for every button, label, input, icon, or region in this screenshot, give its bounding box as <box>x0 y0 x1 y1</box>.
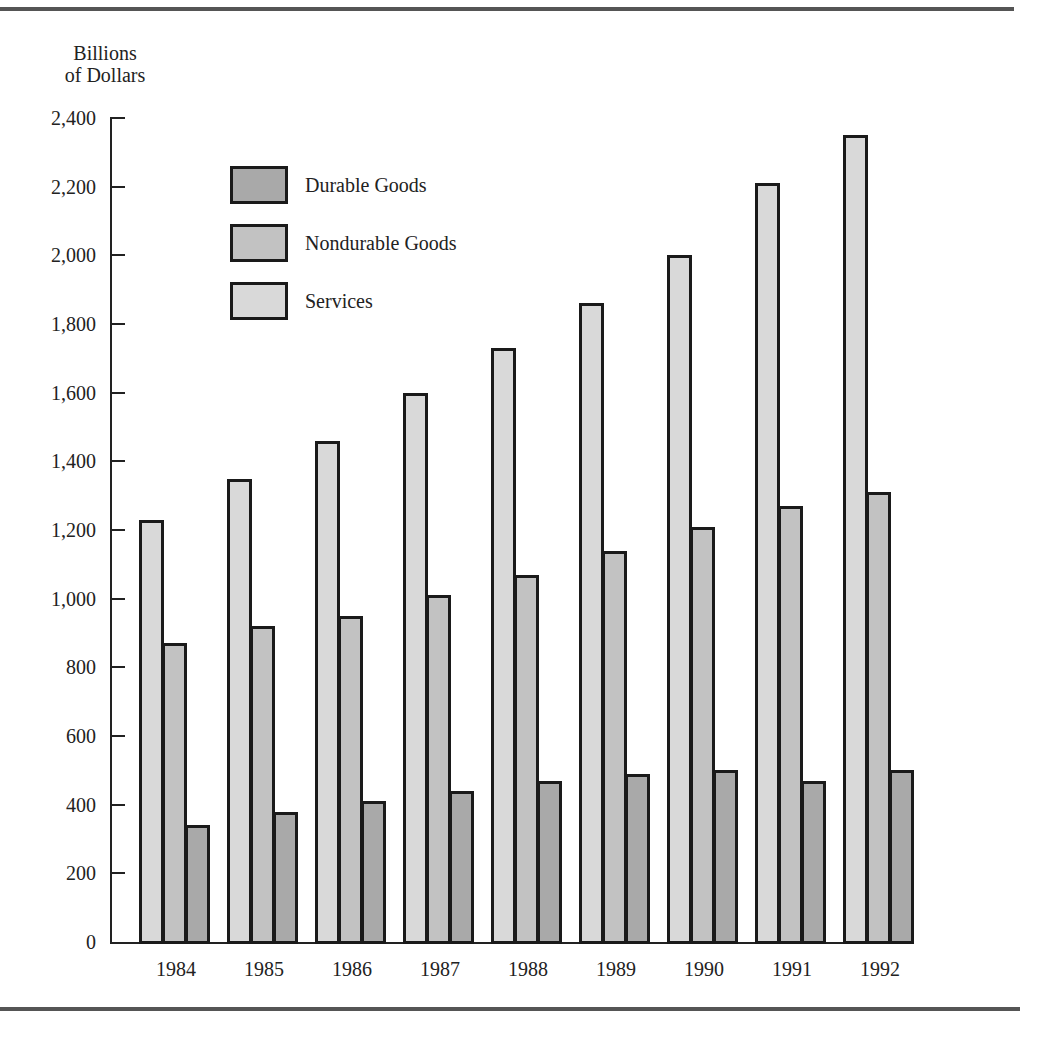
y-tick <box>110 872 125 874</box>
bar-services-1984 <box>139 520 164 944</box>
bar-durable-goods-1987 <box>449 791 474 944</box>
y-tick-label: 1,200 <box>26 520 96 540</box>
bar-services-1992 <box>843 135 868 944</box>
bar-nondurable-goods-1992 <box>866 492 891 944</box>
legend-swatch <box>230 282 288 320</box>
y-tick-label: 1,000 <box>26 589 96 609</box>
y-tick <box>110 598 125 600</box>
bar-services-1986 <box>315 441 340 944</box>
y-tick-label: 2,000 <box>26 245 96 265</box>
y-tick-label: 1,400 <box>26 451 96 471</box>
bar-nondurable-goods-1990 <box>690 527 715 944</box>
x-tick-label: 1984 <box>141 958 211 981</box>
y-tick-label: 800 <box>26 657 96 677</box>
legend-label: Services <box>305 290 373 313</box>
legend-swatch <box>230 224 288 262</box>
bar-services-1991 <box>755 183 780 944</box>
y-tick-label: 2,400 <box>26 108 96 128</box>
bar-services-1985 <box>227 479 252 945</box>
y-tick <box>110 460 125 462</box>
bar-nondurable-goods-1989 <box>602 551 627 944</box>
x-tick-label: 1985 <box>229 958 299 981</box>
bar-nondurable-goods-1991 <box>778 506 803 944</box>
y-tick <box>110 529 125 531</box>
legend-label: Nondurable Goods <box>305 232 457 255</box>
y-tick <box>110 666 125 668</box>
y-tick-label: 2,200 <box>26 177 96 197</box>
bar-nondurable-goods-1986 <box>338 616 363 944</box>
y-tick <box>110 117 125 119</box>
bar-nondurable-goods-1988 <box>514 575 539 944</box>
bar-services-1989 <box>579 303 604 944</box>
y-tick <box>110 323 125 325</box>
bar-services-1988 <box>491 348 516 944</box>
bar-nondurable-goods-1985 <box>250 626 275 944</box>
bar-services-1990 <box>667 255 692 944</box>
bar-nondurable-goods-1987 <box>426 595 451 944</box>
bar-durable-goods-1986 <box>361 801 386 944</box>
y-axis-line <box>110 118 112 944</box>
y-tick-label: 1,600 <box>26 383 96 403</box>
y-tick <box>110 392 125 394</box>
top-rule <box>0 7 1014 11</box>
x-tick-label: 1988 <box>493 958 563 981</box>
bar-durable-goods-1990 <box>713 770 738 944</box>
legend-label: Durable Goods <box>305 174 427 197</box>
y-axis-title-line-1: Billions <box>40 42 170 64</box>
bar-services-1987 <box>403 393 428 944</box>
y-tick-label: 600 <box>26 726 96 746</box>
bar-durable-goods-1991 <box>801 781 826 944</box>
bar-nondurable-goods-1984 <box>162 643 187 944</box>
bar-durable-goods-1988 <box>537 781 562 944</box>
x-tick-label: 1986 <box>317 958 387 981</box>
x-tick-label: 1987 <box>405 958 475 981</box>
y-tick <box>110 735 125 737</box>
legend-swatch <box>230 166 288 204</box>
x-tick-label: 1991 <box>757 958 827 981</box>
x-tick-label: 1992 <box>845 958 915 981</box>
y-tick <box>110 804 125 806</box>
x-tick-label: 1990 <box>669 958 739 981</box>
y-tick <box>110 254 125 256</box>
x-tick-label: 1989 <box>581 958 651 981</box>
y-tick-label: 1,800 <box>26 314 96 334</box>
y-tick-label: 400 <box>26 795 96 815</box>
y-tick <box>110 186 125 188</box>
y-axis-title-line-2: of Dollars <box>40 64 170 86</box>
bar-durable-goods-1989 <box>625 774 650 944</box>
y-tick-label: 0 <box>26 932 96 952</box>
bar-durable-goods-1984 <box>185 825 210 944</box>
bar-durable-goods-1992 <box>889 770 914 944</box>
bottom-rule <box>0 1007 1020 1011</box>
bar-durable-goods-1985 <box>273 812 298 944</box>
y-axis-title: Billions of Dollars <box>40 42 170 86</box>
y-tick-label: 200 <box>26 863 96 883</box>
